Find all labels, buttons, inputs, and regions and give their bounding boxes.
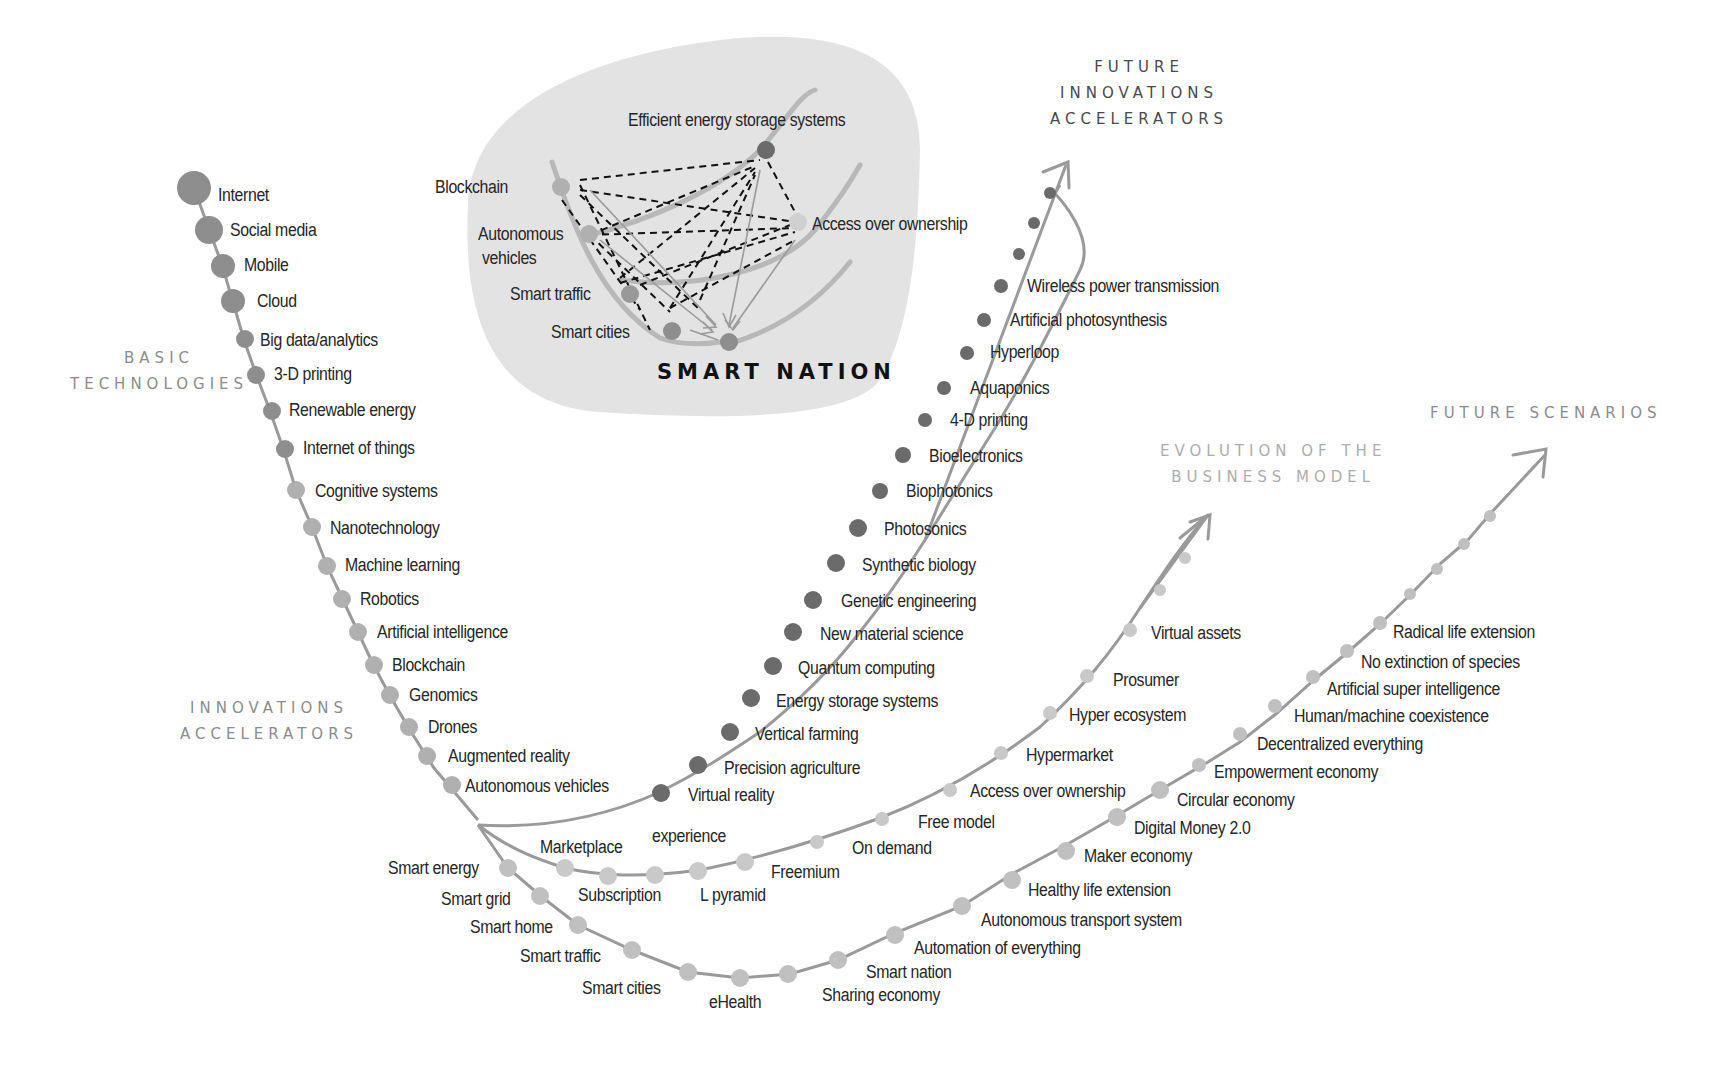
- label-future-innovation: Genetic engineering: [841, 591, 976, 611]
- label-innovation-accel: Nanotechnology: [330, 518, 440, 538]
- label-future-innovation: Artificial photosynthesis: [1010, 310, 1167, 330]
- label-future-innovation: Bioelectronics: [929, 446, 1023, 466]
- label-future-scenario: Artificial super intelligence: [1327, 679, 1500, 699]
- label-business-model: Subscription: [578, 885, 661, 905]
- label-future-innovation: Biophotonics: [906, 481, 992, 501]
- label-business-model: experience: [652, 826, 726, 846]
- label-future-innovation: Synthetic biology: [862, 555, 976, 575]
- label-future-innovation: Virtual reality: [688, 785, 774, 805]
- label-innovation-accel: Blockchain: [392, 655, 465, 675]
- label-future-innovation: Photosonics: [884, 519, 966, 539]
- label-future-scenario: Smart home: [470, 917, 553, 937]
- label-future-innovation: Vertical farming: [755, 724, 859, 744]
- label-future-scenario: Smart grid: [441, 889, 511, 909]
- diagram-graphics: [0, 0, 1726, 1068]
- sn-label-autonomous: Autonomous: [478, 224, 563, 244]
- label-basic-tech: Social media: [230, 220, 316, 240]
- label-basic-tech: Big data/analytics: [260, 330, 378, 350]
- label-future-innovation: Energy storage systems: [776, 691, 938, 711]
- label-future-scenario: eHealth: [709, 992, 761, 1012]
- label-future-scenario: Maker economy: [1084, 846, 1192, 866]
- label-future-innovation: Quantum computing: [798, 658, 935, 678]
- label-business-model: Marketplace: [540, 837, 622, 857]
- label-future-innovation: 4-D printing: [950, 410, 1028, 430]
- title-future-innovations-accelerators: FUTURE INNOVATIONS ACCELERATORS: [1050, 54, 1228, 132]
- label-basic-tech: Renewable energy: [289, 400, 415, 420]
- label-business-model: Access over ownership: [970, 781, 1125, 801]
- label-future-scenario: Automation of everything: [914, 938, 1081, 958]
- label-business-model: Hypermarket: [1026, 745, 1113, 765]
- label-future-innovation: Wireless power transmission: [1027, 276, 1219, 296]
- label-business-model: On demand: [852, 838, 932, 858]
- label-innovation-accel: Augmented reality: [448, 746, 570, 766]
- label-future-innovation: New material science: [820, 624, 963, 644]
- label-future-scenario: Decentralized everything: [1257, 734, 1423, 754]
- label-future-scenario: Empowerment economy: [1214, 762, 1378, 782]
- label-innovation-accel: Machine learning: [345, 555, 460, 575]
- sn-label-smart-traffic: Smart traffic: [510, 284, 591, 304]
- label-future-scenario: Circular economy: [1177, 790, 1295, 810]
- label-future-scenario: Smart nation: [866, 962, 952, 982]
- label-future-scenario: No extinction of species: [1361, 652, 1520, 672]
- label-future-scenario: Radical life extension: [1393, 622, 1535, 642]
- label-basic-tech: Internet: [218, 185, 269, 205]
- label-future-innovation: Aquaponics: [970, 378, 1049, 398]
- label-business-model: L pyramid: [700, 885, 766, 905]
- label-future-scenario: Sharing economy: [822, 985, 940, 1005]
- label-innovation-accel: Cognitive systems: [315, 481, 438, 501]
- label-future-scenario: Smart energy: [388, 858, 479, 878]
- label-innovation-accel: Autonomous vehicles: [465, 776, 609, 796]
- title-future-scenarios: FUTURE SCENARIOS: [1430, 400, 1662, 426]
- label-innovation-accel: Genomics: [409, 685, 477, 705]
- label-innovation-accel: Artificial intelligence: [377, 622, 508, 642]
- label-future-scenario: Healthy life extension: [1028, 880, 1171, 900]
- label-future-innovation: Precision agriculture: [724, 758, 860, 778]
- innovation-diagram: BASIC TECHNOLOGIES INNOVATIONS ACCELERAT…: [0, 0, 1726, 1068]
- label-future-scenario: Digital Money 2.0: [1134, 818, 1250, 838]
- label-innovation-accel: Robotics: [360, 589, 419, 609]
- title-basic-technologies: BASIC TECHNOLOGIES: [70, 345, 248, 397]
- label-basic-tech: Internet of things: [303, 438, 415, 458]
- label-business-model: Virtual assets: [1151, 623, 1241, 643]
- label-basic-tech: 3-D printing: [274, 364, 352, 384]
- sn-label-smart-cities: Smart cities: [551, 322, 630, 342]
- label-future-scenario: Smart traffic: [520, 946, 601, 966]
- sn-label-efficient-energy: Efficient energy storage systems: [628, 110, 845, 130]
- label-business-model: Free model: [918, 812, 995, 832]
- label-future-scenario: Human/machine coexistence: [1294, 706, 1489, 726]
- label-innovation-accel: Drones: [428, 717, 477, 737]
- label-future-scenario: Smart cities: [582, 978, 661, 998]
- title-evolution-business-model: EVOLUTION OF THE BUSINESS MODEL: [1160, 438, 1386, 490]
- label-business-model: Hyper ecosystem: [1069, 705, 1186, 725]
- sn-label-blockchain: Blockchain: [435, 177, 508, 197]
- label-future-scenario: Autonomous transport system: [981, 910, 1182, 930]
- label-basic-tech: Cloud: [257, 291, 297, 311]
- label-business-model: Freemium: [771, 862, 839, 882]
- sn-label-vehicles: vehicles: [482, 248, 536, 268]
- smart-nation-title: SMART NATION: [657, 360, 896, 384]
- sn-label-access-over-ownership: Access over ownership: [812, 214, 967, 234]
- label-business-model: Prosumer: [1113, 670, 1179, 690]
- label-basic-tech: Mobile: [244, 255, 289, 275]
- title-innovations-accelerators: INNOVATIONS ACCELERATORS: [180, 695, 358, 747]
- label-future-innovation: Hyperloop: [990, 342, 1059, 362]
